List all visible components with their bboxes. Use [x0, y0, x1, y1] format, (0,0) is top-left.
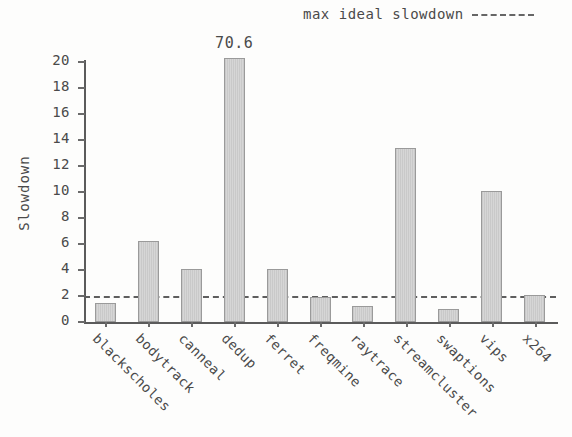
- x-axis-label-ferret: ferret: [262, 330, 310, 378]
- bar-blackscholes: [95, 303, 116, 322]
- bar-dedup: [224, 58, 245, 322]
- bar-bodytrack: [138, 241, 159, 322]
- x-axis-label-vips: vips: [476, 330, 512, 366]
- x-axis-label-blackscholes: blackscholes: [90, 330, 175, 415]
- y-tick-label: 16: [30, 104, 70, 120]
- y-tick-mark: [78, 165, 85, 167]
- x-tick-mark-freqmine: [320, 322, 322, 327]
- bar-streamcluster: [395, 148, 416, 322]
- bar-vips: [481, 191, 502, 322]
- y-tick-label: 0: [30, 312, 70, 328]
- y-tick-label: 12: [30, 156, 70, 172]
- x-tick-mark-ferret: [277, 322, 279, 327]
- y-tick-label: 18: [30, 78, 70, 94]
- plot-area: 02468101214161820 70.6: [84, 62, 556, 322]
- x-tick-mark-dedup: [234, 322, 236, 327]
- y-tick-mark: [78, 87, 85, 89]
- legend-label: max ideal slowdown: [303, 6, 464, 22]
- y-tick-label: 20: [30, 52, 70, 68]
- bar-raytrace: [352, 306, 373, 322]
- y-tick-label: 10: [30, 182, 70, 198]
- y-tick-label: 6: [30, 234, 70, 250]
- x-tick-mark-bodytrack: [148, 322, 150, 327]
- x-tick-mark-canneal: [191, 322, 193, 327]
- x-tick-mark-x264: [535, 322, 537, 327]
- x-tick-mark-blackscholes: [105, 322, 107, 327]
- bar-x264: [524, 295, 545, 322]
- y-tick-mark: [78, 243, 85, 245]
- x-tick-mark-vips: [492, 322, 494, 327]
- y-tick-mark: [78, 139, 85, 141]
- y-tick-mark: [78, 217, 85, 219]
- y-tick-mark: [78, 61, 85, 63]
- y-tick-label: 4: [30, 260, 70, 276]
- y-tick-mark: [78, 191, 85, 193]
- bar-ferret: [267, 269, 288, 322]
- y-tick-label: 8: [30, 208, 70, 224]
- y-tick-label: 2: [30, 286, 70, 302]
- x-tick-mark-streamcluster: [406, 322, 408, 327]
- y-tick-mark: [78, 321, 85, 323]
- slowdown-bar-chart: max ideal slowdown Slowdown 024681012141…: [0, 0, 572, 437]
- bar-canneal: [181, 269, 202, 322]
- legend-dashed-line-swatch: [472, 14, 534, 16]
- chart-legend: max ideal slowdown: [303, 6, 534, 22]
- y-tick-label: 14: [30, 130, 70, 146]
- bar-freqmine: [310, 297, 331, 322]
- x-axis-label-x264: x264: [519, 330, 555, 366]
- x-tick-mark-swaptions: [449, 322, 451, 327]
- x-tick-mark-raytrace: [363, 322, 365, 327]
- y-tick-mark: [78, 269, 85, 271]
- bar-swaptions: [438, 309, 459, 322]
- bar-value-label-dedup: 70.6: [215, 34, 253, 52]
- y-tick-mark: [78, 113, 85, 115]
- x-axis-label-dedup: dedup: [219, 330, 261, 372]
